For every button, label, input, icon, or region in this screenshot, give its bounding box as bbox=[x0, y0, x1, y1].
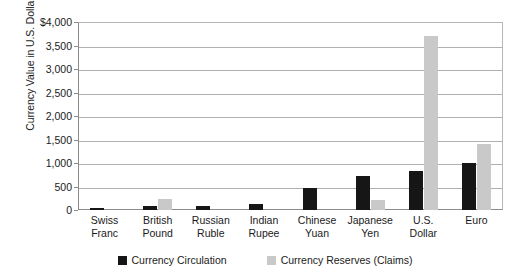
y-axis-tick-label: 2,500 bbox=[8, 87, 72, 99]
x-axis-label-line: Franc bbox=[78, 227, 131, 240]
bar-group bbox=[184, 22, 237, 210]
x-axis-label-line: Rupee bbox=[237, 227, 290, 240]
bar-group bbox=[131, 22, 184, 210]
legend-item: Currency Circulation bbox=[118, 254, 227, 266]
x-axis-label-line: Euro bbox=[450, 214, 503, 227]
x-axis-label-line: Japanese bbox=[344, 214, 397, 227]
y-axis-tick-label: 1,000 bbox=[8, 157, 72, 169]
x-axis-label-line: Russian bbox=[184, 214, 237, 227]
bar-currency-circulation bbox=[303, 188, 317, 210]
bar-currency-circulation bbox=[196, 206, 210, 210]
x-axis-label-line: Ruble bbox=[184, 227, 237, 240]
bars-layer bbox=[78, 22, 503, 210]
bar-group bbox=[344, 22, 397, 210]
bar-chart: Currency Value in U.S. Dollars (billions… bbox=[0, 0, 530, 279]
y-axis-tick-label: 2,000 bbox=[8, 110, 72, 122]
legend-label: Currency Circulation bbox=[132, 254, 227, 266]
bar-currency-circulation bbox=[356, 176, 370, 210]
x-axis-label: BritishPound bbox=[131, 214, 184, 239]
x-axis-label: U.S.Dollar bbox=[397, 214, 450, 239]
x-axis-label-line: Dollar bbox=[397, 227, 450, 240]
y-axis-tick-label: 0 bbox=[8, 204, 72, 216]
bar-group bbox=[397, 22, 450, 210]
x-axis-label: IndianRupee bbox=[237, 214, 290, 239]
x-axis-label-line: Swiss bbox=[78, 214, 131, 227]
x-axis-label: ChineseYuan bbox=[291, 214, 344, 239]
bar-group bbox=[78, 22, 131, 210]
x-axis-category-labels: SwissFrancBritishPoundRussianRubleIndian… bbox=[78, 214, 503, 248]
x-axis-label: SwissFranc bbox=[78, 214, 131, 239]
y-axis-tick-label: 500 bbox=[8, 181, 72, 193]
y-axis-tick-label: 3,500 bbox=[8, 40, 72, 52]
bar-currency-circulation bbox=[143, 206, 157, 210]
x-axis-label-line: Pound bbox=[131, 227, 184, 240]
chart-legend: Currency CirculationCurrency Reserves (C… bbox=[0, 254, 530, 266]
bar-group bbox=[291, 22, 344, 210]
bar-group bbox=[450, 22, 503, 210]
x-axis-label: Euro bbox=[450, 214, 503, 227]
bar-currency-reserves bbox=[424, 36, 438, 210]
x-axis-label-line: U.S. bbox=[397, 214, 450, 227]
x-axis-label-line: Yuan bbox=[291, 227, 344, 240]
x-axis-label-line: British bbox=[131, 214, 184, 227]
y-axis-tick-label: $4,000 bbox=[8, 16, 72, 28]
x-axis-label-line: Yen bbox=[344, 227, 397, 240]
bar-group bbox=[237, 22, 290, 210]
bar-currency-reserves bbox=[477, 144, 491, 210]
y-axis-tick-mark bbox=[74, 210, 78, 211]
bar-currency-reserves bbox=[371, 200, 385, 210]
gray-square-swatch bbox=[267, 256, 276, 265]
x-axis-label-line: Indian bbox=[237, 214, 290, 227]
x-axis-label: JapaneseYen bbox=[344, 214, 397, 239]
x-axis-label: RussianRuble bbox=[184, 214, 237, 239]
bar-currency-circulation bbox=[90, 208, 104, 210]
bar-currency-circulation bbox=[462, 163, 476, 210]
legend-label: Currency Reserves (Claims) bbox=[281, 254, 413, 266]
bar-currency-circulation bbox=[249, 204, 263, 210]
legend-item: Currency Reserves (Claims) bbox=[267, 254, 413, 266]
y-axis-tick-label: 3,000 bbox=[8, 63, 72, 75]
x-axis-label-line: Chinese bbox=[291, 214, 344, 227]
y-axis-tick-label: 1,500 bbox=[8, 134, 72, 146]
black-square-swatch bbox=[118, 256, 127, 265]
bar-currency-circulation bbox=[409, 171, 423, 210]
bar-currency-reserves bbox=[158, 199, 172, 210]
